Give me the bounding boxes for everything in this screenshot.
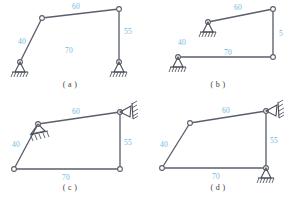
- joint-top-left-d: [188, 121, 193, 126]
- dim-label-d-60: 60: [222, 106, 230, 115]
- dim-label-b-60: 60: [234, 3, 242, 12]
- joint-top-left-a: [40, 16, 45, 21]
- panel-d: 40 60 55 70 ( d ): [146, 95, 292, 200]
- dim-label-c-60: 60: [72, 107, 80, 116]
- joint-top-right-a: [117, 7, 122, 12]
- dim-label-b-70: 70: [224, 48, 232, 57]
- caption-d: ( d ): [198, 183, 238, 192]
- caption-c: ( c ): [50, 183, 90, 192]
- dim-label-a-70: 70: [65, 46, 73, 55]
- dim-label-b-5: 5: [279, 29, 283, 38]
- joint-bottom-left-c: [12, 167, 17, 172]
- figure-container: 40 60 55 70 ( a ): [0, 0, 292, 200]
- support-pin-inclined-upper-left-c: [30, 122, 49, 141]
- member-top-beam-a: [42, 9, 119, 18]
- support-pin-bottom-left-a: [11, 60, 28, 77]
- dim-label-a-55: 55: [124, 27, 132, 36]
- support-pin-upper-left-b: [199, 20, 216, 37]
- dim-label-b-40: 40: [178, 38, 186, 47]
- joint-bottom-left-d: [160, 166, 165, 171]
- support-pin-bottom-right-a: [110, 60, 127, 77]
- dim-label-d-40: 40: [160, 140, 168, 149]
- dim-label-c-55: 55: [124, 138, 132, 147]
- dim-label-a-60: 60: [72, 2, 80, 11]
- dim-label-d-55: 55: [270, 136, 278, 145]
- joint-bottom-right-b: [271, 55, 276, 60]
- panel-a: 40 60 55 70 ( a ): [0, 0, 146, 95]
- caption-b: ( b ): [198, 80, 238, 89]
- panel-c: 40 60 55 70 ( c ): [0, 95, 146, 200]
- dim-label-c-70: 70: [62, 173, 70, 182]
- dim-label-c-40: 40: [12, 140, 20, 149]
- joint-top-right-b: [271, 7, 276, 12]
- caption-a: ( a ): [50, 80, 90, 89]
- dim-label-d-70: 70: [212, 172, 220, 181]
- joint-bottom-right-c: [118, 167, 123, 172]
- panel-b: 40 60 5 70 ( b ): [146, 0, 292, 95]
- dim-label-a-40: 40: [18, 37, 26, 46]
